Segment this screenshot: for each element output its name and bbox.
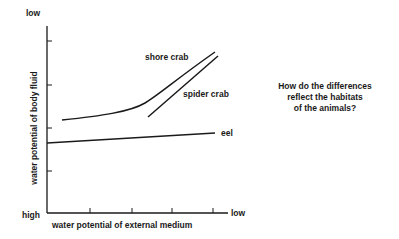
shore-crab-label: shore crab — [145, 52, 188, 62]
y-axis-high-label: high — [22, 210, 40, 220]
y-axis-low-label: low — [26, 8, 40, 18]
eel-line — [47, 133, 215, 143]
question-annotation: How do the differences reflect the habit… — [260, 81, 390, 114]
spider-crab-line — [148, 56, 218, 117]
question-line-3: of the animals? — [260, 103, 390, 114]
y-ticks — [47, 41, 52, 171]
x-axis-low-label: low — [231, 208, 245, 218]
x-axis-title: water potential of external medium — [52, 220, 192, 230]
spider-crab-label: spider crab — [183, 89, 229, 99]
eel-label: eel — [221, 128, 233, 138]
x-ticks — [90, 208, 213, 213]
question-line-1: How do the differences — [260, 81, 390, 92]
shore-crab-line — [62, 52, 215, 120]
question-line-2: reflect the habitats — [260, 92, 390, 103]
y-axis-title: water potential of body fluid — [29, 71, 39, 184]
chart-plot — [0, 0, 399, 239]
